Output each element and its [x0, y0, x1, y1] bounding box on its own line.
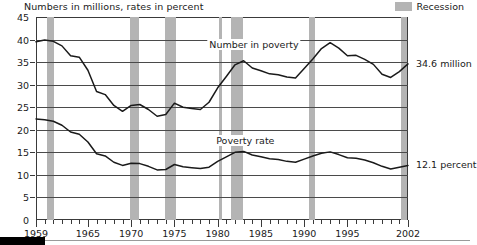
y-axis-labels: 454035302520151050: [0, 17, 34, 220]
y-tick-mark: [30, 62, 35, 63]
y-tick-label: 10: [17, 169, 29, 180]
x-tick-label: 1980: [206, 228, 230, 239]
x-tick-label: 1970: [119, 228, 143, 239]
y-tick-mark: [30, 130, 35, 131]
x-tick-mark: [97, 220, 98, 224]
bottom-black-bar: [0, 237, 45, 245]
y-tick-mark: [30, 152, 35, 153]
y-tick-label: 35: [17, 57, 29, 68]
x-tick-mark: [226, 220, 227, 224]
x-tick-mark: [321, 220, 322, 224]
x-tick-label: 1965: [76, 228, 100, 239]
x-tick-mark: [105, 220, 106, 224]
chart-legend: Recession: [395, 1, 464, 12]
x-tick-mark: [88, 220, 89, 227]
x-tick-mark: [148, 220, 149, 224]
x-tick-mark: [157, 220, 158, 224]
x-axis-ticks: [36, 220, 408, 227]
x-tick-mark: [278, 220, 279, 224]
x-tick-label: 1975: [162, 228, 186, 239]
x-tick-mark: [183, 220, 184, 224]
x-tick-mark: [200, 220, 201, 224]
x-tick-label: 1985: [249, 228, 273, 239]
y-tick-mark: [30, 107, 35, 108]
end-label-poverty-rate: 12.1 percent: [416, 159, 477, 170]
y-tick-label: 20: [17, 124, 29, 135]
x-tick-mark: [174, 220, 175, 227]
x-tick-mark: [287, 220, 288, 224]
end-label-number-in-poverty: 34.6 million: [416, 58, 472, 69]
x-tick-mark: [408, 220, 409, 227]
x-tick-mark: [131, 220, 132, 227]
x-tick-mark: [347, 220, 348, 227]
x-tick-mark: [356, 220, 357, 224]
x-tick-mark: [270, 220, 271, 224]
legend-label-recession: Recession: [417, 1, 464, 12]
x-tick-mark: [71, 220, 72, 224]
y-tick-mark: [30, 40, 35, 41]
y-tick-label: 30: [17, 79, 29, 90]
y-tick-label: 45: [17, 12, 29, 23]
x-tick-mark: [373, 220, 374, 224]
y-tick-mark: [30, 175, 35, 176]
x-tick-mark: [36, 220, 37, 227]
x-tick-mark: [399, 220, 400, 224]
x-tick-mark: [218, 220, 219, 227]
y-tick-label: 0: [23, 215, 29, 226]
plot-area: Number in poverty Poverty rate: [36, 17, 408, 220]
x-tick-mark: [330, 220, 331, 224]
x-tick-mark: [365, 220, 366, 224]
x-tick-mark: [391, 220, 392, 224]
x-tick-mark: [339, 220, 340, 224]
x-tick-label: 1990: [292, 228, 316, 239]
x-tick-mark: [166, 220, 167, 224]
y-tick-label: 25: [17, 102, 29, 113]
recession-swatch-icon: [395, 2, 412, 11]
x-tick-label: 2002: [396, 228, 420, 239]
x-tick-mark: [209, 220, 210, 224]
x-tick-label: 1995: [335, 228, 359, 239]
x-tick-mark: [114, 220, 115, 224]
x-tick-mark: [252, 220, 253, 224]
x-tick-mark: [304, 220, 305, 227]
x-tick-mark: [192, 220, 193, 224]
y-tick-mark: [30, 85, 35, 86]
y-tick-label: 5: [23, 192, 29, 203]
x-tick-mark: [140, 220, 141, 224]
y-tick-label: 15: [17, 147, 29, 158]
y-tick-label: 40: [17, 34, 29, 45]
series-label-number-in-poverty: Number in poverty: [207, 39, 300, 50]
x-tick-mark: [62, 220, 63, 224]
x-tick-mark: [45, 220, 46, 224]
x-tick-mark: [313, 220, 314, 224]
x-tick-mark: [235, 220, 236, 224]
x-tick-mark: [123, 220, 124, 224]
curve-number-in-poverty: [36, 40, 408, 116]
bottom-rule: [45, 240, 470, 241]
chart-axis-title: Numbers in millions, rates in percent: [24, 1, 203, 12]
series-label-poverty-rate: Poverty rate: [214, 135, 276, 146]
x-tick-mark: [296, 220, 297, 224]
x-tick-mark: [261, 220, 262, 227]
y-tick-mark: [30, 197, 35, 198]
x-tick-mark: [244, 220, 245, 224]
x-tick-mark: [53, 220, 54, 224]
x-tick-mark: [382, 220, 383, 224]
x-tick-mark: [79, 220, 80, 224]
